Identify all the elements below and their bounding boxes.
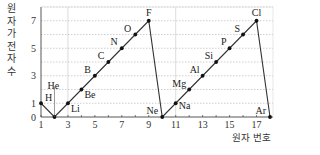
y-tick-label: 7: [31, 15, 36, 26]
element-label: F: [146, 7, 152, 18]
y-tick-label: 5: [31, 43, 36, 54]
x-tick-label: 1: [39, 119, 44, 130]
x-tick-label: 13: [198, 119, 208, 130]
data-point: [93, 74, 97, 78]
x-tick-label: 5: [92, 119, 97, 130]
data-point: [80, 88, 84, 92]
element-label: Si: [205, 50, 214, 61]
data-point: [187, 88, 191, 92]
y-tick-label: 1: [31, 98, 36, 109]
data-point: [255, 19, 259, 23]
data-point: [241, 33, 245, 37]
data-point: [201, 74, 205, 78]
data-point: [120, 46, 124, 50]
y-tick-label: 3: [31, 70, 36, 81]
element-label: O: [124, 23, 131, 34]
element-label: Na: [179, 100, 191, 111]
x-tick-label: 7: [119, 119, 124, 130]
element-label: Ar: [255, 105, 266, 116]
element-label: Li: [71, 103, 80, 114]
data-point: [214, 60, 218, 64]
element-label: Cl: [252, 7, 262, 18]
element-label: N: [111, 36, 118, 47]
data-point: [174, 101, 178, 105]
data-point: [268, 115, 272, 119]
data-point: [66, 101, 70, 105]
data-point: [39, 101, 43, 105]
element-label: Be: [84, 89, 96, 100]
element-label: C: [98, 50, 105, 61]
x-tick-label: 17: [252, 119, 262, 130]
x-tick-label: 15: [225, 119, 235, 130]
element-label: Ne: [147, 105, 159, 116]
element-label: He: [47, 80, 59, 91]
y-tick-label: 0: [31, 112, 36, 123]
element-label: P: [221, 36, 227, 47]
element-label: H: [45, 92, 52, 103]
element-label: Mg: [172, 78, 186, 89]
x-tick-label: 11: [171, 119, 181, 130]
data-point: [228, 46, 232, 50]
element-label: Al: [190, 64, 200, 75]
element-label: S: [234, 23, 240, 34]
element-label: B: [84, 64, 91, 75]
data-point: [147, 19, 151, 23]
x-tick-label: 9: [146, 119, 151, 130]
data-point: [133, 33, 137, 37]
data-point: [160, 115, 164, 119]
data-point: [106, 60, 110, 64]
x-axis-label: 원자 번호: [232, 130, 271, 144]
x-tick-label: 3: [65, 119, 70, 130]
